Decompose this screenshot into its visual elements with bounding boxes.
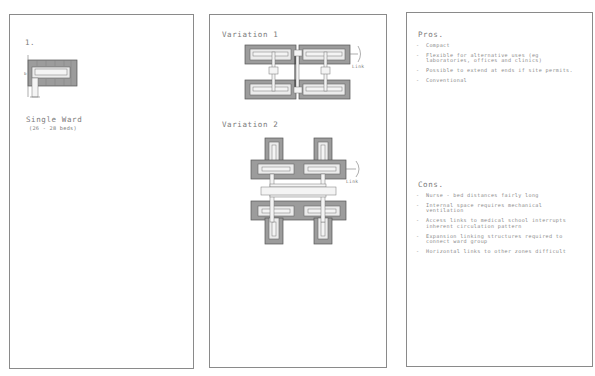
cons-item: Internal space requires mechanical venti… — [414, 203, 574, 214]
pros-item: Conventional — [414, 78, 574, 84]
variation-1-link-label: Link — [352, 64, 364, 70]
ward-option-number: 1. — [25, 38, 35, 47]
cons-list: Nurse - bed distances fairly long Intern… — [414, 193, 574, 259]
pros-item: Possible to extend at ends if site permi… — [414, 68, 574, 74]
svg-text:b: b — [24, 71, 27, 76]
ward-title: Single Ward — [26, 115, 82, 124]
cons-heading: Cons. — [418, 180, 444, 189]
cons-item: Access links to medical school interrupt… — [414, 218, 574, 229]
pros-list: Compact Flexible for alternative uses (e… — [414, 43, 574, 88]
variation-1-plan — [245, 45, 361, 99]
cons-item: Nurse - bed distances fairly long — [414, 193, 574, 199]
ward-capacity: (26 - 28 beds) — [29, 125, 77, 131]
cons-item: Horizontal links to other zones difficul… — [414, 249, 574, 255]
variation-2-plan — [251, 138, 359, 244]
cons-item: Expansion linking structures required to… — [414, 234, 574, 245]
variation-2-title: Variation 2 — [222, 120, 278, 129]
variation-1-title: Variation 1 — [222, 30, 278, 39]
single-ward-plan: b — [24, 55, 77, 97]
pros-item: Compact — [414, 43, 574, 49]
pros-item: Flexible for alternative uses (eg labora… — [414, 53, 574, 64]
pros-heading: Pros. — [418, 30, 444, 39]
variation-2-link-label: Link — [346, 179, 358, 185]
